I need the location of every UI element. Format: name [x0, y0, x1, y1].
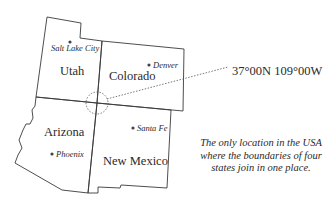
coordinates-label: 37°00N 109°00W: [232, 64, 322, 79]
four-corners-map: [0, 0, 333, 207]
denver-dot: [147, 63, 150, 66]
state-label-arizona: Arizona: [44, 125, 84, 140]
city-label-santa-fe: Santa Fe: [137, 123, 167, 133]
phoenix-dot: [50, 152, 53, 155]
city-label-salt-lake-city: Salt Lake City: [51, 43, 99, 53]
arizona-outline: [15, 97, 97, 193]
new-mexico-outline: [88, 103, 171, 193]
state-label-new-mexico: New Mexico: [103, 154, 168, 169]
santa-fe-dot: [131, 126, 134, 129]
city-label-phoenix: Phoenix: [56, 149, 84, 159]
state-label-utah: Utah: [60, 64, 84, 79]
state-label-colorado: Colorado: [109, 69, 156, 84]
city-label-denver: Denver: [153, 60, 178, 70]
utah-outline: [36, 17, 102, 103]
caption-text: The only location in the USA where the b…: [196, 137, 326, 175]
